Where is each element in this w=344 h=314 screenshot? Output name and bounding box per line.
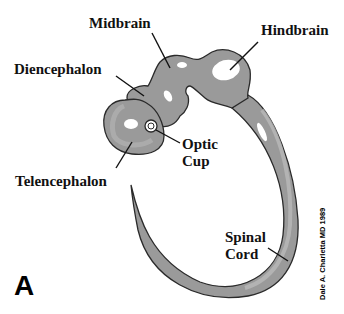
panel-letter: A bbox=[14, 270, 34, 302]
label-spinal-cord: Spinal Cord bbox=[225, 229, 266, 263]
midbrain-highlight bbox=[177, 62, 187, 68]
label-diencephalon: Diencephalon bbox=[14, 61, 102, 77]
label-midbrain: Midbrain bbox=[89, 15, 151, 31]
embryonic-brain-diagram bbox=[0, 0, 344, 314]
label-optic-cup: Optic Cup bbox=[182, 136, 218, 170]
label-telencephalon: Telencephalon bbox=[15, 173, 107, 189]
spinal-cord-line1: Spinal bbox=[225, 229, 266, 246]
label-hindbrain: Hindbrain bbox=[261, 22, 329, 38]
artist-credit: Dale A. Charletta MD 1989 bbox=[318, 208, 327, 300]
optic-cup-line2: Cup bbox=[182, 153, 218, 170]
telencephalon-highlight bbox=[124, 119, 138, 129]
spinal-cord-line2: Cord bbox=[225, 246, 266, 263]
optic-cup-marker bbox=[145, 120, 157, 132]
optic-cup-line1: Optic bbox=[182, 136, 218, 153]
